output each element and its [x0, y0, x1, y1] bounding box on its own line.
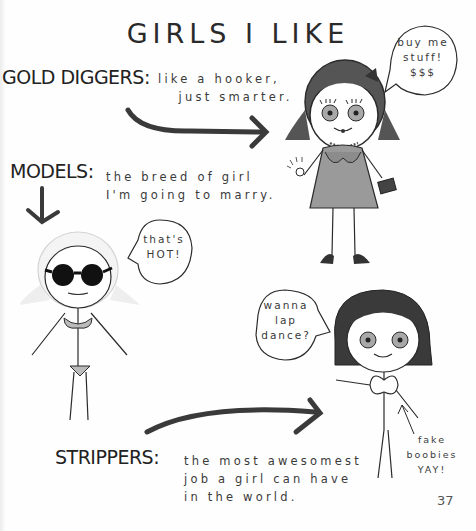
book-page: GIRLS I LIKE GOLD DIGGERS: like a hooker…	[0, 0, 476, 531]
curved-arrow-icon	[147, 400, 320, 432]
stripper-speech-bubble: wanna lap dance?	[258, 298, 314, 343]
gold-digger-speech-bubble: buy me stuff! $$$	[393, 35, 453, 80]
page-number: 37	[437, 493, 454, 508]
down-arrow-icon	[28, 188, 58, 222]
curved-arrow-icon	[128, 110, 266, 146]
model-speech-bubble: that's HOT!	[138, 232, 190, 262]
fake-boobies-annotation: fake boobies YAY!	[402, 432, 462, 477]
